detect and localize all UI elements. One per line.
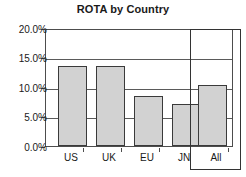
chart-title: ROTA by Country [0,3,246,15]
bar-jn [172,104,201,146]
xtick-mark-2 [121,148,122,152]
ytick-label-0: 0.0% [0,142,47,153]
xtick-mark-5 [228,148,229,152]
xtick-mark-4 [190,148,191,152]
bar-eu [134,96,163,146]
bar-all [198,85,227,146]
xtick-label-all: All [210,152,221,163]
ytick-label-15: 15.0% [0,53,47,64]
ytick-label-5: 5.0% [0,112,47,123]
xtick-label-us: US [64,152,78,163]
bar-us [58,66,87,146]
xtick-mark-1 [83,148,84,152]
gridline-15pct [46,59,232,60]
ytick-label-10: 10.0% [0,83,47,94]
xtick-label-eu: EU [140,152,154,163]
xtick-mark-3 [159,148,160,152]
xtick-label-uk: UK [102,152,116,163]
bar-uk [96,66,125,146]
plot-area [45,29,233,147]
ytick-label-20: 20.0% [0,24,47,35]
bar-chart: ROTA by Country 0.0% 5.0% 10.0% 15.0% 20… [0,0,246,177]
xtick-label-jn: JN [178,152,190,163]
